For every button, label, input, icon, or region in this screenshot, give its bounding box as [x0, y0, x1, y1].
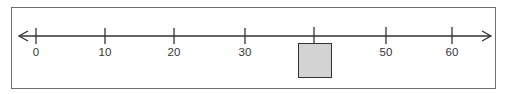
- tick-label-30: 30: [239, 46, 252, 58]
- tick-label-10: 10: [99, 46, 112, 58]
- tick-label-60: 60: [446, 46, 459, 58]
- tick-label-20: 20: [168, 46, 181, 58]
- answer-box[interactable]: [298, 43, 332, 78]
- number-line: [0, 0, 509, 94]
- tick-label-0: 0: [33, 46, 39, 58]
- tick-label-50: 50: [380, 46, 393, 58]
